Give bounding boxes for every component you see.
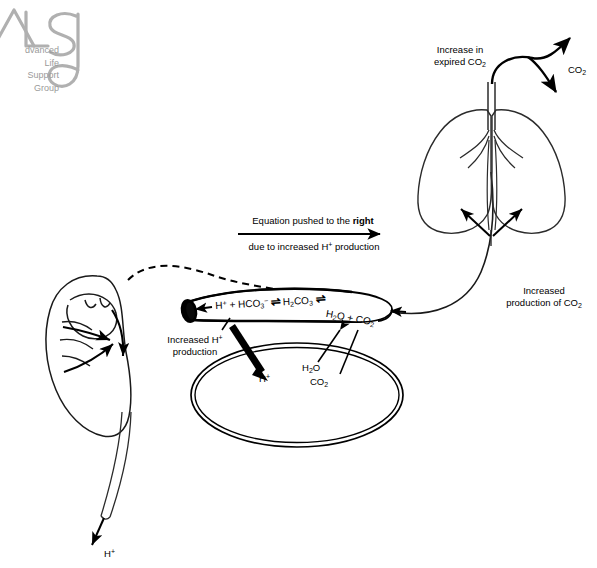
increase-expired-sub: 2 bbox=[482, 61, 486, 68]
vessel-arrow-into-tubule bbox=[392, 311, 406, 312]
cell-membrane-loop bbox=[191, 343, 403, 447]
equation-banner-bottom: due to increased H+ production bbox=[233, 239, 395, 253]
h2o-cell-text: H bbox=[302, 362, 309, 373]
h-plus-cell-text: H bbox=[259, 373, 266, 384]
increase-expired-line1: Increase in bbox=[413, 44, 507, 56]
co2-cell-text: CO bbox=[310, 376, 324, 387]
increased-h-production-label: Increased H+ production bbox=[152, 332, 238, 358]
increased-co2-line1: Increased bbox=[492, 285, 596, 297]
co2-cell-sub: 2 bbox=[324, 381, 328, 388]
eq-term-h2o-o: O bbox=[336, 310, 346, 322]
h-plus-excreted-label: H+ bbox=[104, 546, 115, 560]
kidney-icon bbox=[46, 276, 131, 437]
increased-h-line1: Increased H bbox=[167, 334, 218, 345]
h-plus-excreted-sup: + bbox=[111, 548, 115, 555]
equation-banner-line2: due to increased H bbox=[249, 241, 329, 252]
equation-banner-line2-suffix: production bbox=[332, 241, 379, 252]
co2-exhaled-sub: 2 bbox=[582, 69, 586, 76]
eq-term-h2co3-co: CO bbox=[294, 295, 310, 307]
eq-plus-1: + bbox=[229, 299, 235, 310]
increased-co2-sub: 2 bbox=[578, 302, 582, 309]
equation-banner-top: Equation pushed to the right bbox=[238, 215, 388, 227]
anatomy-layer bbox=[0, 0, 597, 568]
equation-banner-emphasis: right bbox=[353, 215, 374, 226]
co2-cell-label: CO2 bbox=[310, 376, 328, 391]
increase-expired-co2-label: Increase in expired CO2 bbox=[413, 44, 507, 71]
h2o-cell-label: H2O bbox=[302, 362, 320, 377]
kidney-flow-arrows bbox=[63, 310, 123, 372]
eq-h2co3-sub2: 3 bbox=[309, 300, 313, 307]
h-plus-excretion-arrow bbox=[92, 518, 104, 545]
increased-co2-production-label: Increased production of CO2 bbox=[492, 285, 596, 312]
eq-h-sup: + bbox=[222, 299, 226, 306]
h-plus-excreted-text: H bbox=[104, 548, 111, 559]
equation-banner-prefix: Equation pushed to the bbox=[252, 215, 352, 226]
h2o-cell-text2: O bbox=[313, 362, 320, 373]
increased-h-sup: + bbox=[219, 334, 223, 341]
co2-exhaled-label: CO2 bbox=[568, 64, 586, 79]
eq-equilibrium-2: ⇌ bbox=[315, 292, 325, 306]
eq-equilibrium-1: ⇌ bbox=[271, 294, 281, 308]
diagram-canvas: dvanced Life Support Group bbox=[0, 0, 597, 568]
blood-vessel-to-lungs bbox=[392, 172, 493, 313]
h-plus-cell-sup: + bbox=[266, 373, 270, 380]
increase-expired-line2: expired CO bbox=[434, 56, 482, 67]
eq-plus-2: + bbox=[346, 312, 354, 324]
co2-exhaled-text: CO bbox=[568, 64, 582, 75]
h-plus-cell-label: H+ bbox=[259, 371, 270, 385]
increased-h-line2: production bbox=[152, 346, 238, 358]
ureter-icon bbox=[101, 412, 131, 519]
eq-term-hco3: HCO bbox=[238, 297, 261, 309]
increased-co2-line2: production of CO bbox=[506, 297, 578, 308]
lungs-icon bbox=[418, 82, 565, 246]
eq-hco3-sup: − bbox=[264, 297, 268, 304]
